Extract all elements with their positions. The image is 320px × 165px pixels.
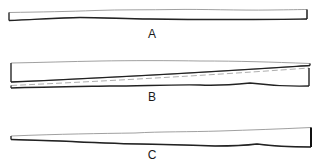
strip-diagram-canvas (0, 0, 320, 165)
strip-label-a: A (132, 28, 172, 40)
strip-shape-b (11, 61, 310, 88)
strip-shape-c (11, 128, 311, 148)
strip-label-b: B (132, 91, 172, 103)
strip-diagram: A B C (0, 0, 320, 165)
strip-label-c: C (132, 149, 172, 161)
strip-shape-a (9, 9, 307, 20)
